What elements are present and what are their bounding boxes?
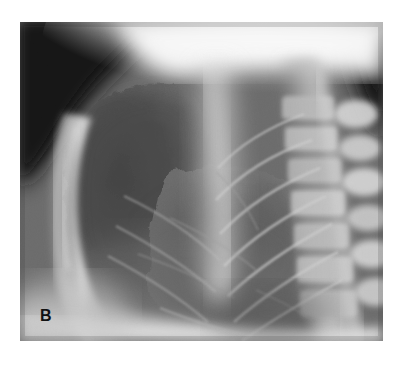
radiograph-canvas [20, 22, 383, 341]
film-grain-overlay [20, 22, 383, 341]
panel-label-b: B [40, 308, 52, 324]
figure-root: B [0, 0, 404, 365]
chest-radiograph-image [20, 22, 383, 341]
